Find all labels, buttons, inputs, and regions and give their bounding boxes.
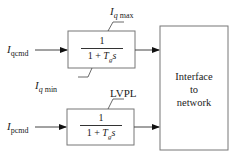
top-fraction-bar bbox=[81, 48, 123, 49]
top-numerator: 1 bbox=[78, 36, 126, 46]
qcmd-label: Iqcmd bbox=[7, 44, 28, 58]
interface-line-2: to bbox=[160, 83, 228, 96]
iqmax-suffix: max bbox=[120, 11, 134, 20]
interface-label: Interface to network bbox=[160, 70, 228, 109]
interface-line-1: Interface bbox=[160, 70, 228, 83]
iqmin-suffix: min bbox=[45, 85, 57, 94]
iqmax-label: Iqmax bbox=[110, 6, 133, 20]
qcmd-subscript: qcmd bbox=[11, 49, 29, 58]
iqmin-subscript: q bbox=[39, 85, 43, 94]
top-denominator: 1 + Tgs bbox=[78, 51, 126, 64]
bottom-denominator: 1 + Tgs bbox=[77, 128, 125, 141]
iqmin-leader bbox=[78, 68, 92, 77]
lvpl-leader bbox=[108, 99, 124, 109]
bottom-fraction-bar bbox=[80, 125, 122, 126]
top-transfer-function: 1 1 + Tgs bbox=[78, 36, 126, 64]
interface-line-3: network bbox=[160, 96, 228, 109]
pcmd-subscript: pcmd bbox=[11, 126, 29, 135]
bottom-transfer-function: 1 1 + Tgs bbox=[77, 113, 125, 141]
lvpl-label: LVPL bbox=[110, 88, 137, 99]
iqmax-subscript: q bbox=[114, 11, 118, 20]
bottom-numerator: 1 bbox=[77, 113, 125, 123]
iqmax-leader bbox=[108, 22, 124, 31]
iqmin-label: Iqmin bbox=[35, 80, 57, 94]
pcmd-label: Ipcmd bbox=[7, 121, 28, 135]
